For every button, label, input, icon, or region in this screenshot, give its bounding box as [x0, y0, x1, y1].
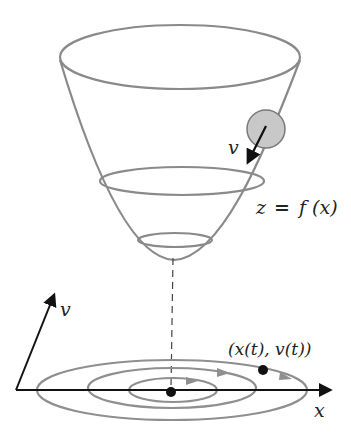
orbit-arrow-middle: [217, 368, 230, 377]
surface-label: z = f (x): [255, 196, 338, 218]
bowl-rim: [60, 25, 300, 89]
trajectory-point: [258, 365, 268, 375]
v-axis: [16, 295, 54, 390]
trajectory-point-label: (x(t), v(t)): [228, 339, 311, 359]
ball: [247, 110, 285, 162]
surface-label-lhs: z: [255, 196, 267, 218]
diagram-canvas: v z = f (x) v x (x(t), v(t)): [0, 0, 351, 439]
ball-circle: [247, 110, 285, 148]
v-axis-label: v: [60, 298, 71, 320]
velocity-label: v: [228, 136, 239, 158]
surface-label-rhs: f (x): [297, 196, 338, 218]
level-ring-bottom: [138, 233, 212, 247]
x-axis-label: x: [314, 399, 325, 421]
level-ring-middle: [100, 167, 264, 195]
surface-label-eq: =: [274, 196, 290, 218]
equilibrium-point: [166, 387, 176, 397]
